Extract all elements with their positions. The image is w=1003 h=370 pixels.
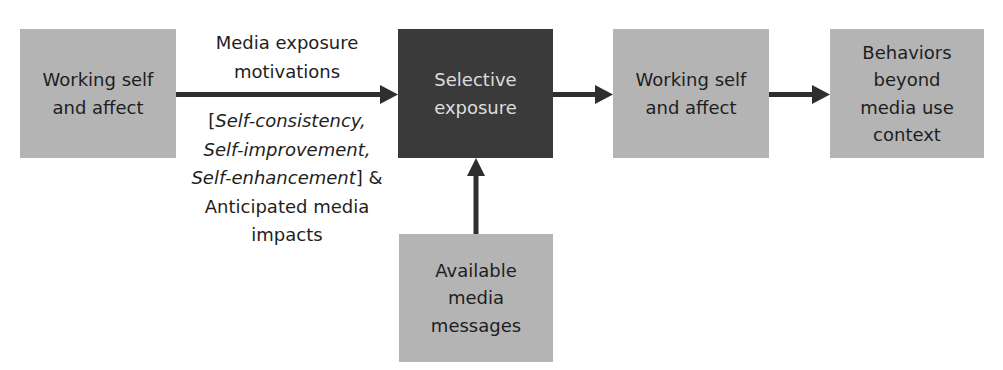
node-text-line: beyond (874, 66, 941, 94)
arrow-selective-exposure-to-working-self (553, 85, 613, 104)
edge-label-line: Media exposure (176, 29, 398, 58)
node-text-line: and affect (52, 94, 143, 122)
node-working-self-and-affect-output: Working self and affect (613, 29, 769, 158)
node-behaviors-beyond-media-use: Behaviors beyond media use context (830, 29, 984, 158)
node-available-media-messages: Available media messages (399, 234, 553, 362)
edge-label-line: [Self-consistency, (176, 107, 398, 136)
node-text-line: and affect (645, 94, 736, 122)
bracket-close-ampersand: ] & (356, 167, 383, 188)
arrow-working-self-to-selective-exposure (176, 85, 398, 104)
node-text-line: Available (435, 257, 516, 285)
node-text-line: media use (860, 94, 954, 122)
motive-self-consistency: Self-consistency, (215, 110, 366, 131)
edge-label-line: Self-enhancement] & (176, 164, 398, 193)
motive-self-enhancement: Self-enhancement (191, 167, 355, 188)
node-text-line: exposure (434, 94, 517, 122)
edge-label-line: impacts (176, 221, 398, 250)
node-text-line: Working self (43, 66, 154, 94)
node-selective-exposure: Selective exposure (398, 29, 553, 158)
edge-label-motivation-types: [Self-consistency, Self-improvement, Sel… (176, 107, 398, 250)
node-text-line: Working self (636, 66, 747, 94)
edge-label-media-exposure-motivations: Media exposure motivations (176, 29, 398, 86)
edge-label-line: Self-improvement, (176, 136, 398, 165)
node-text-line: media (448, 284, 504, 312)
edge-label-line: Anticipated media (176, 193, 398, 222)
node-text-line: context (873, 121, 941, 149)
edge-label-line: motivations (176, 58, 398, 87)
arrow-available-media-to-selective-exposure (467, 158, 485, 234)
node-text-line: Behaviors (862, 39, 951, 67)
arrow-working-self-to-behaviors (769, 85, 830, 104)
node-working-self-and-affect-input: Working self and affect (20, 29, 176, 158)
motive-self-improvement: Self-improvement, (204, 139, 371, 160)
node-text-line: Selective (434, 66, 516, 94)
node-text-line: messages (431, 312, 521, 340)
